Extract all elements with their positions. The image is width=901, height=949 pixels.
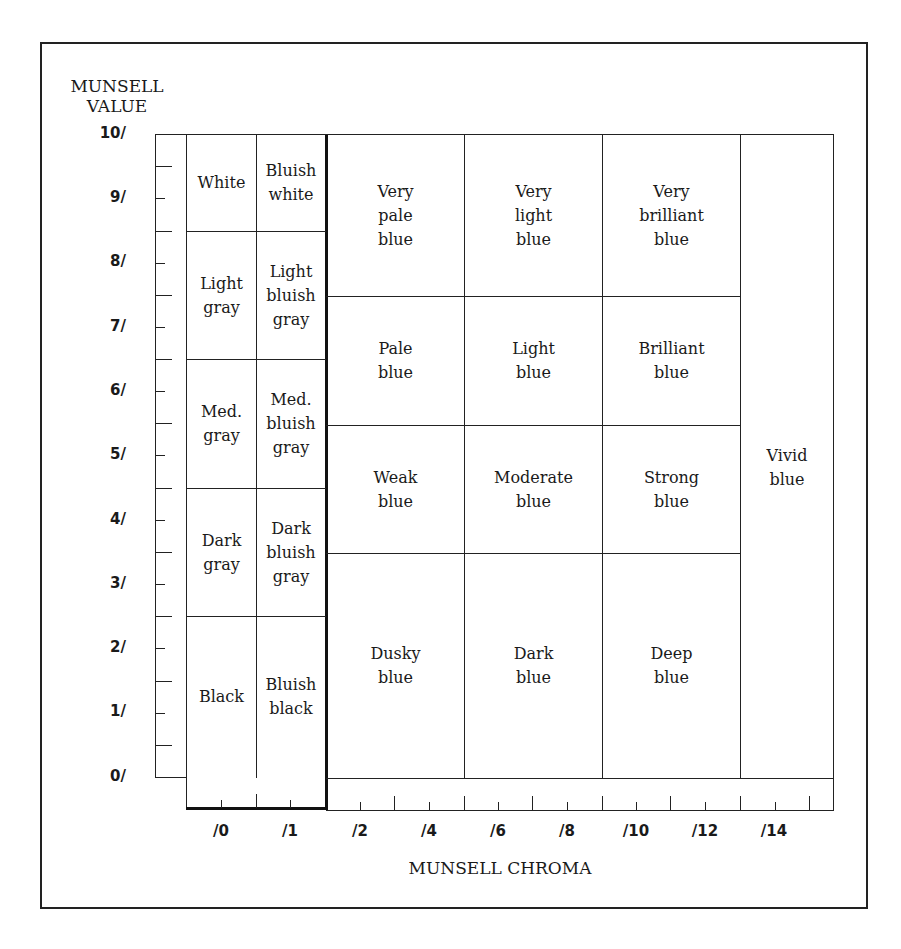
cell-brilliant-blue: Brilliant blue bbox=[603, 297, 740, 425]
cell-weak-blue: Weak blue bbox=[327, 426, 464, 553]
x-tick-label-14: /14 bbox=[754, 822, 794, 840]
y-tick-label-5: 5/ bbox=[86, 445, 126, 463]
chroma-tick-odd bbox=[809, 796, 810, 810]
x-tick-label-6: /6 bbox=[478, 822, 518, 840]
value-axis-zero bbox=[155, 777, 186, 778]
chroma-tick-odd bbox=[532, 796, 533, 810]
y-tick-label-6: 6/ bbox=[86, 381, 126, 399]
chroma-tick-odd bbox=[670, 796, 671, 810]
chroma-tick-odd bbox=[394, 796, 395, 810]
y-tick-label-4: 4/ bbox=[86, 510, 126, 528]
chroma-tick bbox=[775, 802, 776, 810]
value-tick-half bbox=[155, 488, 172, 489]
cell-med-gray: Med. gray bbox=[187, 360, 256, 488]
chroma-tick-odd bbox=[602, 796, 603, 810]
value-tick bbox=[155, 713, 165, 714]
cell-med-bluish-gray: Med. bluish gray bbox=[257, 360, 325, 488]
y-axis-title-line2: VALUE bbox=[62, 96, 172, 116]
chroma-tick-half bbox=[256, 794, 257, 808]
value-tick bbox=[155, 584, 165, 585]
y-axis-title-line1: MUNSELL bbox=[62, 76, 172, 96]
y-tick-label-0: 0/ bbox=[86, 767, 126, 785]
x-tick-label-12: /12 bbox=[685, 822, 725, 840]
x-tick-label-4: /4 bbox=[409, 822, 449, 840]
cell-very-pale-blue: Very pale blue bbox=[327, 135, 464, 296]
cell-white: White bbox=[187, 135, 256, 231]
y-tick-label-3: 3/ bbox=[86, 574, 126, 592]
cell-pale-blue: Pale blue bbox=[327, 297, 464, 425]
chroma-tick-odd bbox=[740, 796, 741, 810]
y-tick-label-8: 8/ bbox=[86, 252, 126, 270]
value-tick bbox=[155, 648, 165, 649]
cell-dark-blue: Dark blue bbox=[465, 554, 602, 778]
y-tick-label-1: 1/ bbox=[86, 702, 126, 720]
y-tick-label-2: 2/ bbox=[86, 638, 126, 656]
value-tick-half bbox=[155, 616, 172, 617]
cell-moderate-blue: Moderate blue bbox=[465, 426, 602, 553]
value-tick-half bbox=[155, 359, 172, 360]
chroma-tick bbox=[636, 802, 637, 810]
value-tick bbox=[155, 455, 165, 456]
y-axis-title: MUNSELL VALUE bbox=[62, 76, 172, 116]
cell-bluish-black: Bluish black bbox=[257, 617, 325, 777]
value-tick-half bbox=[155, 681, 172, 682]
chroma-tick bbox=[498, 802, 499, 810]
chroma-tick bbox=[360, 802, 361, 810]
cell-vivid-blue: Vivid blue bbox=[741, 412, 833, 524]
chart-right-border bbox=[833, 134, 834, 811]
value-tick bbox=[155, 263, 165, 264]
cell-dusky-blue: Dusky blue bbox=[327, 554, 464, 778]
value-tick bbox=[155, 520, 165, 521]
value-tick-half bbox=[155, 231, 172, 232]
cell-very-light-blue: Very light blue bbox=[465, 135, 602, 296]
value-tick bbox=[155, 391, 165, 392]
x-tick-label-10: /10 bbox=[616, 822, 656, 840]
value-tick-half bbox=[155, 552, 172, 553]
chroma-tick bbox=[290, 800, 291, 808]
chroma-tick bbox=[221, 800, 222, 808]
x-tick-label-0: /0 bbox=[201, 822, 241, 840]
x-tick-label-2: /2 bbox=[340, 822, 380, 840]
chroma-tick bbox=[567, 802, 568, 810]
chromatic-chroma-axis bbox=[326, 810, 834, 811]
x-axis-title: MUNSELL CHROMA bbox=[380, 858, 620, 878]
y-tick-label-10: 10/ bbox=[86, 124, 126, 142]
cell-light-blue: Light blue bbox=[465, 297, 602, 425]
value-tick-half bbox=[155, 423, 172, 424]
cell-black: Black bbox=[187, 617, 256, 777]
y-tick-label-7: 7/ bbox=[86, 317, 126, 335]
x-tick-label-1: /1 bbox=[270, 822, 310, 840]
chroma-tick bbox=[705, 802, 706, 810]
value-tick-half bbox=[155, 166, 172, 167]
value-tick-half bbox=[155, 745, 172, 746]
cell-strong-blue: Strong blue bbox=[603, 426, 740, 553]
chromatic-zero-line bbox=[326, 778, 834, 779]
cell-dark-gray: Dark gray bbox=[187, 489, 256, 616]
cell-bluish-white: Bluish white bbox=[257, 135, 325, 231]
value-tick bbox=[155, 327, 165, 328]
x-tick-label-8: /8 bbox=[547, 822, 587, 840]
chroma-tick-odd bbox=[464, 796, 465, 810]
neutral-chroma-axis bbox=[186, 807, 328, 810]
cell-dark-bluish-gray: Dark bluish gray bbox=[257, 489, 325, 616]
chroma-tick bbox=[429, 802, 430, 810]
cell-light-gray: Light gray bbox=[187, 232, 256, 359]
y-tick-label-9: 9/ bbox=[86, 188, 126, 206]
cell-very-brilliant-blue: Very brilliant blue bbox=[603, 135, 740, 296]
cell-light-bluish-gray: Light bluish gray bbox=[257, 232, 325, 359]
value-tick bbox=[155, 198, 165, 199]
value-tick-half bbox=[155, 295, 172, 296]
cell-deep-blue: Deep blue bbox=[603, 554, 740, 778]
